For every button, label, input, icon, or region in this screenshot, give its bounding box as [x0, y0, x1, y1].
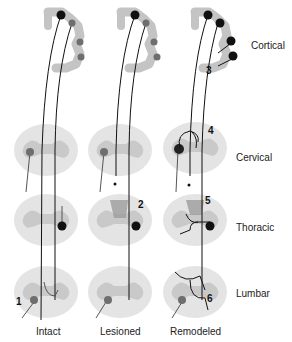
- cortex-intact: [48, 12, 80, 68]
- level-label-lumbar: Lumbar: [236, 288, 270, 299]
- level-label-cortical: Cortical: [251, 40, 285, 51]
- column-label-remodeled: Remodeled: [170, 326, 221, 337]
- column-label-intact: Intact: [36, 326, 60, 337]
- annotation-5: 5: [205, 195, 211, 206]
- annotation-1: 1: [16, 296, 22, 307]
- column-label-lesioned: Lesioned: [100, 326, 141, 337]
- level-label-thoracic: Thoracic: [236, 222, 274, 233]
- annotation-6: 6: [207, 293, 213, 304]
- annotation-2: 2: [138, 199, 144, 210]
- annotation-3: 3: [206, 65, 212, 76]
- level-label-cervical: Cervical: [236, 152, 272, 163]
- annotation-4: 4: [208, 125, 214, 136]
